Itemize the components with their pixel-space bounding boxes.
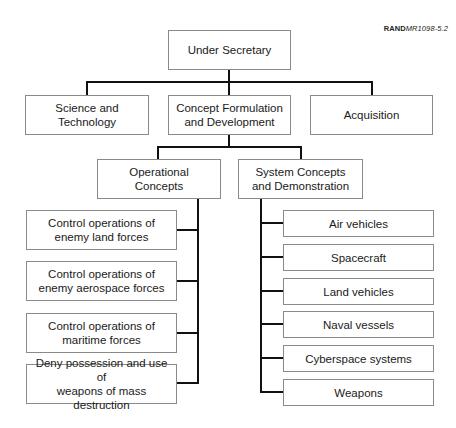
connector-system-spine (260, 198, 262, 393)
node-label: Operational Concepts (129, 165, 188, 193)
connector-concept-drop (228, 81, 230, 95)
node-label: Control operations of enemy land forces (48, 216, 155, 244)
node-acquisition: Acquisition (310, 95, 433, 135)
figure-brand: RAND (384, 24, 406, 33)
node-sys-cyberspace: Cyberspace systems (283, 345, 434, 372)
node-label: Cyberspace systems (305, 352, 412, 366)
node-label: Naval vessels (323, 318, 394, 332)
node-label: Weapons (334, 386, 382, 400)
node-op-maritime-forces: Control operations of maritime forces (26, 313, 177, 353)
node-label: Acquisition (344, 108, 400, 122)
connector-sys-2 (260, 256, 283, 258)
connector-system-drop (300, 146, 302, 159)
connector-level2-bar (157, 146, 302, 148)
node-label: Deny possession and use of weapons of ma… (31, 356, 172, 412)
connector-sys-1 (260, 222, 283, 224)
connector-science-drop (86, 81, 88, 95)
node-system-concepts: System Concepts and Demonstration (238, 159, 363, 199)
node-label: Spacecraft (331, 251, 386, 265)
connector-op-3 (176, 332, 198, 334)
node-label: Control operations of maritime forces (48, 319, 155, 347)
connector-sys-5 (260, 357, 283, 359)
connector-sys-6 (260, 391, 283, 393)
node-sys-spacecraft: Spacecraft (283, 244, 434, 271)
node-sys-air-vehicles: Air vehicles (283, 210, 434, 237)
node-sys-naval-vessels: Naval vessels (283, 311, 434, 338)
connector-op-1 (176, 229, 198, 231)
figure-reference: RANDMR1098-5.2 (384, 24, 448, 33)
node-under-secretary: Under Secretary (168, 30, 291, 70)
connector-sys-3 (260, 290, 283, 292)
node-concept-formulation: Concept Formulation and Development (168, 95, 291, 135)
node-sys-land-vehicles: Land vehicles (283, 278, 434, 305)
node-label: Control operations of enemy aerospace fo… (39, 267, 165, 295)
node-science-technology: Science and Technology (25, 95, 149, 135)
connector-operational-spine (197, 198, 199, 384)
node-label: Air vehicles (329, 217, 388, 231)
node-op-aerospace-forces: Control operations of enemy aerospace fo… (26, 261, 177, 301)
connector-op-2 (176, 280, 198, 282)
node-op-land-forces: Control operations of enemy land forces (26, 210, 177, 250)
connector-sys-4 (260, 323, 283, 325)
node-sys-weapons: Weapons (283, 379, 434, 406)
connector-operational-drop (157, 146, 159, 159)
node-label: Land vehicles (323, 285, 393, 299)
node-op-wmd: Deny possession and use of weapons of ma… (26, 364, 177, 404)
node-label: Concept Formulation and Development (176, 101, 283, 129)
connector-acquisition-drop (371, 81, 373, 95)
node-label: Under Secretary (188, 43, 272, 57)
figure-code: MR1098-5.2 (406, 24, 448, 33)
node-label: Science and Technology (55, 101, 118, 129)
node-label: System Concepts and Demonstration (252, 165, 349, 193)
connector-op-4 (176, 382, 198, 384)
node-operational-concepts: Operational Concepts (97, 159, 221, 199)
